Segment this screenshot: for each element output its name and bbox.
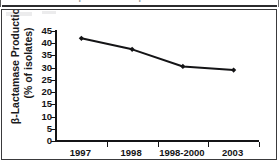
chart-plot-area: β-Lactamase Production (% of isolates) 4… <box>2 10 277 160</box>
caption-divider <box>2 5 277 7</box>
data-point-marker <box>231 68 236 73</box>
figure-caption-text: FIG. 1. β-Lactamase production <box>47 0 188 2</box>
data-series-line <box>2 10 277 160</box>
figure-page: FIG. 1. β-Lactamase production β-Lactama… <box>0 0 279 162</box>
series-polyline <box>81 38 233 70</box>
figure-frame: β-Lactamase Production (% of isolates) 4… <box>1 9 277 160</box>
clipped-caption-strip: FIG. 1. β-Lactamase production <box>0 0 279 7</box>
data-point-marker <box>180 64 185 69</box>
data-point-marker <box>79 36 84 41</box>
data-point-marker <box>130 47 135 52</box>
